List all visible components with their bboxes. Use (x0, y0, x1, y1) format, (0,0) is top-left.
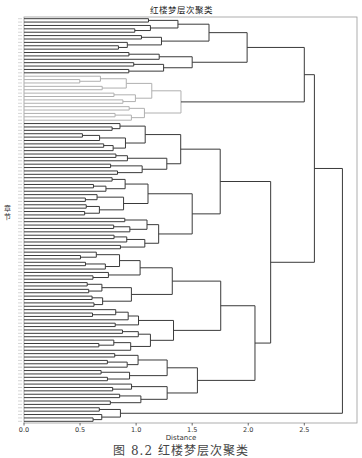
x-tick-label: 2.5 (299, 426, 309, 434)
figure-caption: 图 8.2 红楼梦层次聚类 (0, 441, 362, 458)
x-tick-label: 1.0 (131, 426, 141, 434)
x-tick-label: 1.5 (187, 426, 197, 434)
x-tick-label: 0.0 (19, 426, 29, 434)
x-tick-label: 2.0 (243, 426, 253, 434)
x-tick-label: 0.5 (75, 426, 85, 434)
